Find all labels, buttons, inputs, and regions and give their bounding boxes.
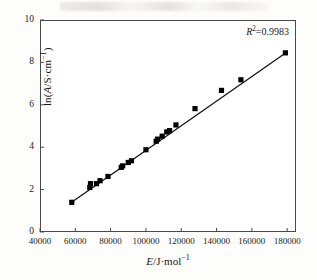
y-axis-label: ln(A/S·cm−1) — [39, 7, 53, 147]
linear-regression-line — [71, 52, 286, 202]
chart-figure: R2=0.9983 400006000080000100000120000140… — [0, 0, 317, 280]
y-tick-label: 0 — [8, 226, 34, 236]
data-point-marker — [105, 174, 110, 179]
data-point-marker — [167, 128, 172, 133]
data-point-marker — [120, 163, 125, 168]
y-tick-label: 6 — [8, 99, 34, 109]
data-point-marker — [238, 77, 243, 82]
data-point-marker — [155, 137, 160, 142]
data-point-marker — [88, 181, 93, 186]
x-axis-ticks — [40, 228, 287, 232]
y-tick-label: 4 — [8, 141, 34, 151]
y-tick-label: 2 — [8, 184, 34, 194]
x-tick-label: 180000 — [262, 236, 312, 246]
data-point-marker — [173, 122, 178, 127]
data-point-marker — [192, 106, 197, 111]
data-point-marker — [129, 158, 134, 163]
data-point-marker — [97, 178, 102, 183]
data-point-marker — [69, 200, 74, 205]
data-point-marker — [283, 50, 288, 55]
y-tick-label: 10 — [8, 14, 34, 24]
x-axis-label: E/J·mol−1 — [40, 253, 296, 267]
y-tick-label: 8 — [8, 56, 34, 66]
data-point-marker — [160, 134, 165, 139]
data-point-marker — [143, 147, 148, 152]
data-point-marker — [219, 88, 224, 93]
